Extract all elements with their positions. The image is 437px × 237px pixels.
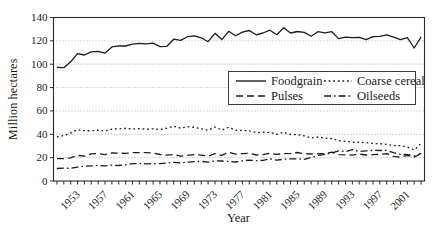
x-tick-label-1969: 1969 <box>168 188 192 212</box>
y-tick-label-0: 0 <box>42 175 48 187</box>
legend: Foodgrain Coarse cereal Pulses Oilseeds <box>228 71 416 105</box>
legend-label-pulses: Pulses <box>271 89 303 103</box>
pulses-line-sample <box>235 91 267 101</box>
x-tick-label-1953: 1953 <box>58 188 82 212</box>
legend-item-oilseeds: Oilseeds <box>323 89 417 103</box>
y-tick-label-100: 100 <box>31 58 48 70</box>
legend-item-pulses: Pulses <box>235 89 323 103</box>
y-tick-label-60: 60 <box>37 104 49 116</box>
y-tick-label-20: 20 <box>37 151 49 163</box>
x-tick-label-1989: 1989 <box>305 188 329 212</box>
y-axis-title: Million hectares <box>4 17 22 181</box>
legend-label-oilseeds: Oilseeds <box>357 89 400 103</box>
legend-item-coarse-cereal: Coarse cereal <box>323 74 417 88</box>
x-tick-label-1997: 1997 <box>360 188 384 212</box>
line-chart: 0204060801001201401953195719611965196919… <box>0 0 437 237</box>
x-tick-label-2001: 2001 <box>388 188 412 212</box>
x-tick-label-1993: 1993 <box>333 188 357 212</box>
x-tick-label-1985: 1985 <box>278 188 302 212</box>
x-tick-label-1957: 1957 <box>85 188 109 212</box>
legend-item-foodgrain: Foodgrain <box>235 74 323 88</box>
foodgrain-line-sample <box>235 76 267 86</box>
x-axis-title: Year <box>53 211 424 226</box>
coarse-cereal-line-sample <box>323 76 353 86</box>
x-tick-label-1961: 1961 <box>113 188 137 212</box>
y-tick-label-120: 120 <box>31 34 48 46</box>
y-tick-label-80: 80 <box>37 81 49 93</box>
y-tick-label-140: 140 <box>31 11 48 23</box>
x-tick-label-1965: 1965 <box>140 188 164 212</box>
x-tick-label-1977: 1977 <box>223 188 247 212</box>
x-tick-label-1973: 1973 <box>195 188 219 212</box>
legend-label-foodgrain: Foodgrain <box>271 74 322 88</box>
oilseeds-line-sample <box>323 91 353 101</box>
y-tick-label-40: 40 <box>37 128 49 140</box>
series-coarse-cereal-line <box>57 126 421 150</box>
plot-area: 0204060801001201401953195719611965196919… <box>0 0 437 237</box>
legend-label-coarse-cereal: Coarse cereal <box>357 74 425 88</box>
x-tick-label-1981: 1981 <box>250 188 274 212</box>
series-foodgrain-line <box>57 28 421 68</box>
